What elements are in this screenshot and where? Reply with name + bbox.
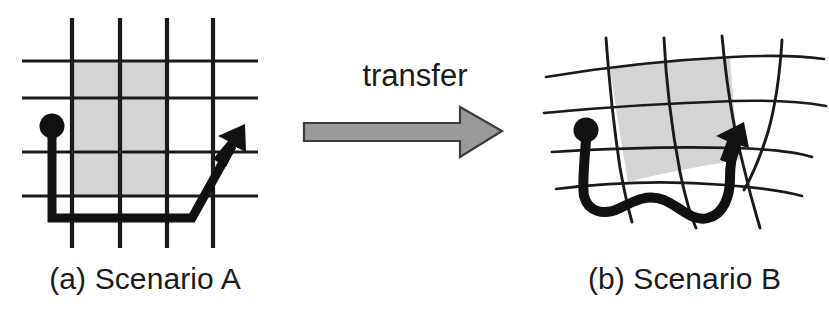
panel-scenario-b: (b) Scenario B xyxy=(540,0,829,321)
trajectory-arrowhead-a xyxy=(213,124,246,167)
start-dot-a xyxy=(40,114,65,139)
caption-scenario-a: (a) Scenario A xyxy=(0,262,290,296)
figure-root: (a) Scenario A transfer xyxy=(0,0,829,321)
shaded-region-b xyxy=(610,57,740,182)
start-dot-b xyxy=(574,118,599,143)
scenario-a-diagram xyxy=(0,0,290,260)
panel-scenario-a: (a) Scenario A xyxy=(0,0,290,321)
transfer-label: transfer xyxy=(290,58,540,94)
scenario-b-diagram xyxy=(540,0,829,260)
caption-scenario-b: (b) Scenario B xyxy=(540,262,829,296)
grid-line-v4 xyxy=(744,40,782,190)
transfer-arrow-icon xyxy=(304,107,502,157)
grid-line-h4 xyxy=(556,182,802,196)
panel-transfer: transfer xyxy=(290,0,540,321)
transfer-arrow-svg xyxy=(290,105,540,185)
